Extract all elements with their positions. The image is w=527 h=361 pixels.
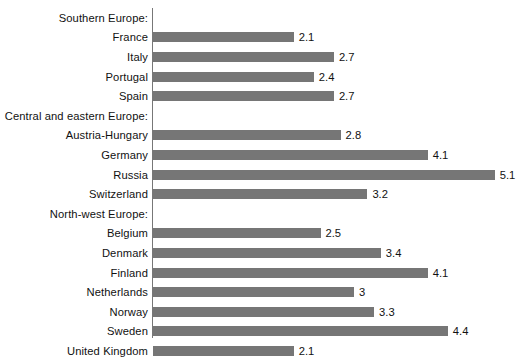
bar (153, 189, 367, 199)
bar (153, 326, 448, 336)
chart-bar-row: Switzerland3.2 (0, 184, 527, 204)
bar-value-label: 3.2 (372, 188, 388, 200)
chart-group-header-row: Central and eastern Europe: (0, 106, 527, 126)
chart-bar-row: Netherlands3 (0, 282, 527, 302)
chart-bar-row: Norway3.3 (0, 302, 527, 322)
category-label: Austria-Hungary (66, 129, 148, 141)
bar-value-label: 2.5 (326, 227, 342, 239)
category-label: Sweden (107, 325, 148, 337)
category-label: France (113, 31, 148, 43)
chart-bar-row: Germany4.1 (0, 145, 527, 165)
chart-bar-row: France2.1 (0, 28, 527, 48)
group-header-label: Southern Europe: (59, 12, 148, 24)
chart-bar-row: Belgium2.5 (0, 224, 527, 244)
bar (153, 287, 354, 297)
bar (153, 228, 321, 238)
category-label: Portugal (106, 71, 148, 83)
bar-value-label: 3.4 (386, 247, 402, 259)
group-header-label: Central and eastern Europe: (5, 110, 148, 122)
category-label: Switzerland (89, 188, 148, 200)
category-label: Italy (127, 51, 148, 63)
bar (153, 150, 428, 160)
category-label: Russia (113, 169, 148, 181)
bar-value-label: 5.1 (500, 169, 516, 181)
bar-value-label: 4.4 (453, 325, 469, 337)
chart-group-header-row: Southern Europe: (0, 8, 527, 28)
chart-bar-row: Denmark3.4 (0, 243, 527, 263)
bar (153, 248, 381, 258)
bar (153, 130, 341, 140)
bar (153, 72, 314, 82)
category-label: Germany (101, 149, 148, 161)
category-label: Spain (119, 90, 148, 102)
bar-value-label: 3 (359, 286, 365, 298)
bar (153, 307, 374, 317)
bar-value-label: 3.3 (379, 306, 395, 318)
group-header-label: North-west Europe: (50, 208, 148, 220)
chart-group-header-row: North-west Europe: (0, 204, 527, 224)
chart-bar-row: Russia5.1 (0, 165, 527, 185)
bar (153, 346, 294, 356)
bar (153, 52, 334, 62)
category-label: United Kingdom (67, 345, 148, 357)
category-label: Finland (111, 267, 148, 279)
bar-value-label: 4.1 (433, 149, 449, 161)
bar-value-label: 2.7 (339, 51, 355, 63)
bar (153, 91, 334, 101)
category-label: Norway (109, 306, 148, 318)
category-label: Netherlands (87, 286, 148, 298)
bar-value-label: 2.7 (339, 90, 355, 102)
bar-value-label: 2.1 (299, 31, 315, 43)
bar (153, 268, 428, 278)
bar-value-label: 4.1 (433, 267, 449, 279)
bar (153, 32, 294, 42)
bar (153, 170, 495, 180)
chart-bar-row: Sweden4.4 (0, 322, 527, 342)
chart-bar-row: Finland4.1 (0, 263, 527, 283)
bar-value-label: 2.4 (319, 71, 335, 83)
chart-bar-row: Portugal2.4 (0, 67, 527, 87)
chart-bar-row: Austria-Hungary2.8 (0, 126, 527, 146)
bar-value-label: 2.1 (299, 345, 315, 357)
chart-bar-row: Spain2.7 (0, 86, 527, 106)
category-label: Belgium (107, 227, 148, 239)
category-label: Denmark (102, 247, 148, 259)
bar-value-label: 2.8 (346, 129, 362, 141)
chart-bar-row: Italy2.7 (0, 47, 527, 67)
chart-bar-row: United Kingdom2.1 (0, 341, 527, 361)
